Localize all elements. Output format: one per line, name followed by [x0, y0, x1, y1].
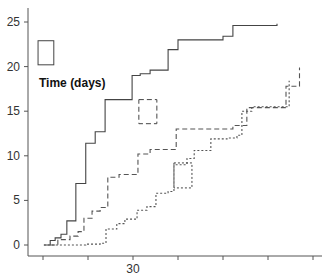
- x-tick-label: 30: [126, 262, 140, 276]
- y-tick-label: 5: [13, 193, 20, 207]
- series-lines: [44, 24, 300, 245]
- series-short-dot: [44, 81, 289, 245]
- y-tick-label: 20: [7, 60, 21, 74]
- y-ticks: 0510152025: [7, 15, 28, 252]
- y-tick-label: 0: [13, 238, 20, 252]
- legend-boxes: [38, 41, 192, 188]
- legend-box-short-dot: [174, 163, 192, 188]
- legend-box-long-dash: [139, 100, 157, 124]
- series-long-dash: [50, 67, 299, 245]
- x-ticks: 30: [43, 256, 313, 276]
- legend-box-solid: [38, 41, 54, 65]
- y-tick-label: 15: [7, 104, 21, 118]
- y-tick-label: 10: [7, 149, 21, 163]
- legend-title: Time (days): [39, 76, 105, 90]
- y-tick-label: 25: [7, 15, 21, 29]
- step-chart: 0510152025 30 Time (days): [0, 0, 328, 280]
